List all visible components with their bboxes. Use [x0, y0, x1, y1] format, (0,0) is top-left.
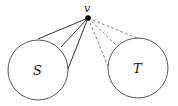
set-S-label: S	[33, 63, 42, 78]
dashed-edges	[88, 18, 137, 66]
edge-v-T-1	[88, 18, 108, 66]
set-T-label: T	[133, 61, 143, 76]
diagram-canvas: v S T	[0, 0, 178, 106]
vertex-v-dot	[85, 15, 91, 21]
edge-v-T-3	[88, 18, 137, 38]
solid-edges	[38, 18, 88, 69]
edge-v-T-2	[88, 18, 116, 45]
vertex-label: v	[84, 2, 91, 15]
edge-v-S-2	[61, 18, 88, 47]
